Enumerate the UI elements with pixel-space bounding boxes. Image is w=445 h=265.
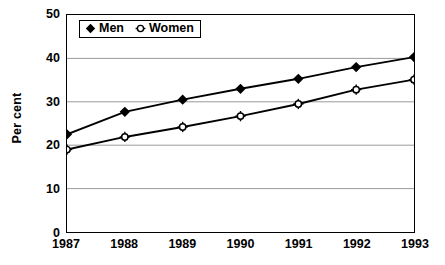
plot-canvas bbox=[67, 15, 414, 232]
filled-diamond-icon bbox=[85, 23, 96, 34]
y-tick-label: 40 bbox=[46, 52, 60, 65]
gridlines bbox=[67, 58, 414, 188]
x-tick-label: 1987 bbox=[52, 238, 80, 251]
data-point-women-1992 bbox=[351, 84, 361, 94]
filled-diamond-icon bbox=[294, 75, 302, 83]
open-circle-icon bbox=[295, 101, 301, 107]
x-tick-label: 1993 bbox=[401, 238, 429, 251]
y-tick-label: 50 bbox=[46, 8, 60, 21]
filled-diamond-icon bbox=[410, 53, 414, 61]
data-point-women-1988 bbox=[120, 132, 130, 142]
x-tick-label: 1990 bbox=[227, 238, 255, 251]
series-line-men bbox=[67, 57, 414, 134]
x-axis-tick-labels: 1987198819891990199119921993 bbox=[0, 238, 445, 262]
data-point-women-1991 bbox=[293, 99, 303, 109]
filled-diamond-icon bbox=[178, 95, 186, 103]
open-circle-cross-icon bbox=[135, 23, 146, 34]
legend-entry-women: Women bbox=[135, 22, 194, 35]
data-point-men-1992 bbox=[352, 63, 360, 71]
open-circle-icon bbox=[353, 86, 359, 92]
x-tick-label: 1989 bbox=[168, 238, 196, 251]
series-lines bbox=[67, 57, 414, 149]
data-point-women-1987 bbox=[67, 144, 72, 154]
filled-diamond-icon bbox=[236, 85, 244, 93]
data-point-men-1990 bbox=[236, 85, 244, 93]
line-chart: Per cent 01020304050 Men Women bbox=[0, 0, 445, 265]
data-point-men-1993 bbox=[410, 53, 414, 61]
legend-label-men: Men bbox=[99, 22, 124, 35]
y-axis-tick-labels: 01020304050 bbox=[30, 0, 64, 240]
filled-diamond-icon bbox=[352, 63, 360, 71]
data-point-men-1987 bbox=[67, 130, 71, 138]
series-markers bbox=[67, 53, 414, 155]
data-point-women-1989 bbox=[177, 122, 187, 132]
y-axis-title: Per cent bbox=[0, 0, 34, 235]
y-tick-label: 10 bbox=[46, 183, 60, 196]
open-circle-icon bbox=[179, 124, 185, 130]
filled-diamond-icon bbox=[67, 130, 71, 138]
plot-area: Men Women bbox=[66, 14, 415, 233]
x-tick-label: 1988 bbox=[110, 238, 138, 251]
y-tick-label: 30 bbox=[46, 95, 60, 108]
open-circle-icon bbox=[237, 113, 243, 119]
filled-diamond-icon bbox=[121, 108, 129, 116]
legend: Men Women bbox=[79, 20, 201, 38]
x-tick-label: 1991 bbox=[285, 238, 313, 251]
y-axis-title-text: Per cent bbox=[10, 92, 24, 143]
legend-entry-men: Men bbox=[85, 22, 124, 35]
x-tick-label: 1992 bbox=[343, 238, 371, 251]
y-tick-label: 20 bbox=[46, 139, 60, 152]
legend-label-women: Women bbox=[149, 22, 194, 35]
open-circle-icon bbox=[411, 76, 414, 82]
open-circle-icon bbox=[67, 146, 70, 152]
data-point-men-1988 bbox=[121, 108, 129, 116]
open-circle-icon bbox=[122, 134, 128, 140]
data-point-women-1993 bbox=[409, 75, 414, 85]
data-point-men-1989 bbox=[178, 95, 186, 103]
data-point-men-1991 bbox=[294, 75, 302, 83]
data-point-women-1990 bbox=[235, 111, 245, 121]
